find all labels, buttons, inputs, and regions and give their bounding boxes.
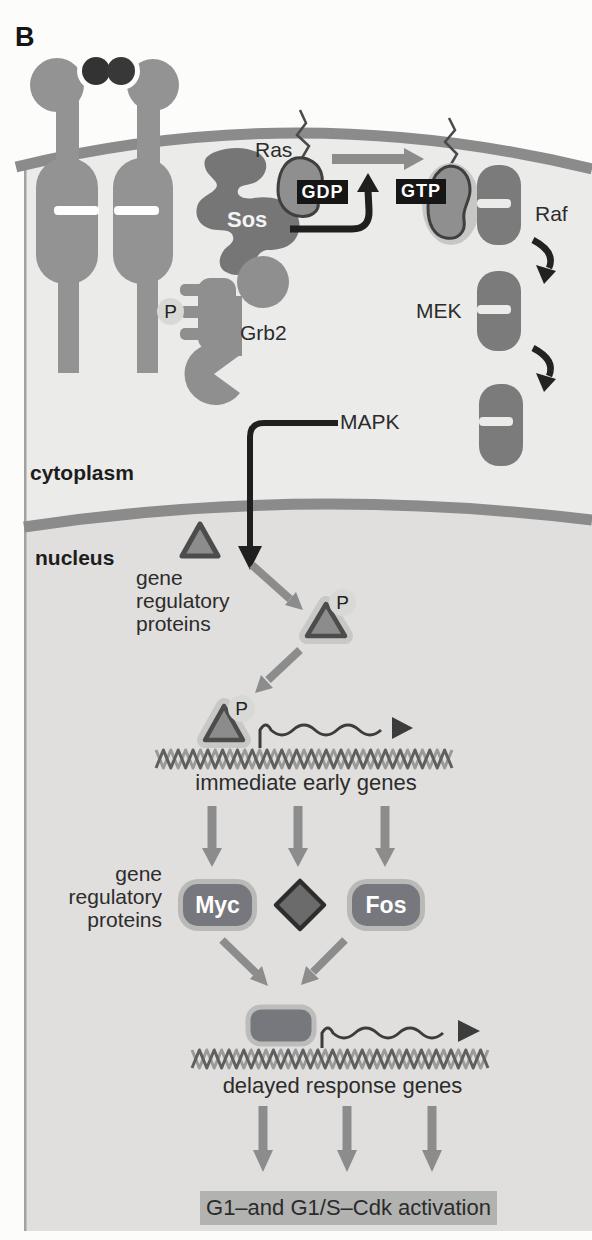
- grp-label-lower-line2: regulatory: [40, 885, 162, 908]
- mapk-kinase-icon: [479, 384, 523, 466]
- raf-label: Raf: [535, 202, 568, 225]
- pathway-artwork: [0, 0, 592, 1240]
- myc-box: Myc: [183, 884, 252, 926]
- immediate-early-genes-label: immediate early genes: [160, 771, 452, 794]
- phosphate-badge-grp1: P: [329, 589, 356, 616]
- grp-label-lower-line3: proteins: [40, 908, 162, 931]
- phosphate-badge-receptor: P: [157, 298, 184, 325]
- ligand-ball-right-icon: [107, 57, 135, 85]
- mapk-label: MAPK: [340, 410, 400, 433]
- gtp-badge: GTP: [396, 179, 446, 204]
- grp-label-lower: gene regulatory proteins: [40, 862, 162, 931]
- figure-left-edge: [24, 165, 27, 1231]
- mek-label: MEK: [416, 299, 462, 322]
- grp-label-upper: gene regulatory proteins: [136, 566, 229, 635]
- grp-label-lower-line1: gene: [40, 862, 162, 885]
- raf-kinase-icon: [477, 165, 521, 245]
- fos-box: Fos: [352, 884, 420, 926]
- panel-label: B: [15, 26, 35, 49]
- ras-label: Ras: [255, 138, 292, 161]
- g1-cdk-activation-box: G1–and G1/S–Cdk activation: [200, 1191, 497, 1225]
- grp-label-upper-line3: proteins: [136, 612, 229, 635]
- ligand-ball-left-icon: [82, 57, 110, 85]
- sos-label: Sos: [227, 208, 267, 231]
- pathway-figure: B Ras Sos GDP GTP Raf MEK MAPK Grb2 P cy…: [0, 0, 592, 1240]
- delayed-response-genes-label: delayed response genes: [220, 1074, 465, 1097]
- grp-label-upper-line2: regulatory: [136, 589, 229, 612]
- gdp-badge: GDP: [297, 180, 348, 204]
- grb2-label: Grb2: [240, 321, 287, 344]
- late-grp-complex-icon: [248, 1007, 314, 1044]
- mek-kinase-icon: [477, 271, 521, 351]
- nucleus-label: nucleus: [35, 546, 114, 569]
- kinase-slot-left: [54, 206, 99, 215]
- phosphate-badge-grp2: P: [228, 695, 255, 722]
- grp-label-upper-line1: gene: [136, 566, 229, 589]
- cytoplasm-label: cytoplasm: [30, 461, 134, 484]
- kinase-slot-right: [114, 206, 159, 215]
